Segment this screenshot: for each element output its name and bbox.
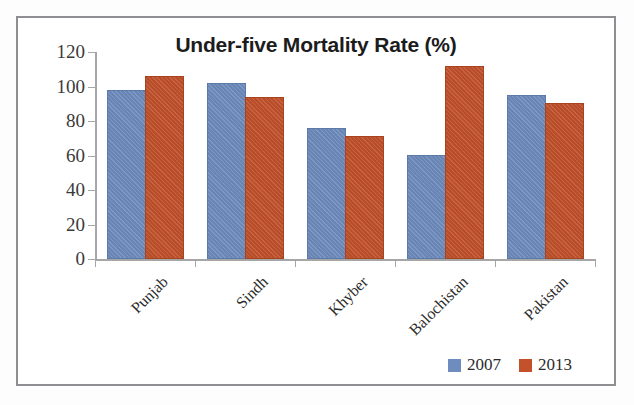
legend-item-2013[interactable]: 2013 <box>519 355 572 375</box>
y-axis-tick-mark <box>88 52 95 53</box>
y-axis-tick-mark <box>88 259 95 260</box>
y-axis-line <box>95 52 97 259</box>
x-axis-tick-mark <box>195 259 196 267</box>
bar-group <box>407 52 483 259</box>
chart-page: Under-five Mortality Rate (%) 0204060801… <box>0 0 634 405</box>
x-axis-tick-mark <box>95 259 96 267</box>
bar-pakistan-2007[interactable] <box>507 95 546 259</box>
bar-group <box>207 52 283 259</box>
y-axis-tick-label: 40 <box>66 179 85 201</box>
bar-punjab-2013[interactable] <box>145 76 184 259</box>
chart-frame: Under-five Mortality Rate (%) 0204060801… <box>16 16 616 386</box>
y-axis-tick-mark <box>88 225 95 226</box>
y-axis-tick-mark <box>88 121 95 122</box>
y-axis-tick-label: 80 <box>66 110 85 132</box>
y-axis-tick-label: 60 <box>66 145 85 167</box>
bar-punjab-2007[interactable] <box>107 90 146 259</box>
bar-khyber-2013[interactable] <box>345 136 384 259</box>
bar-sindh-2013[interactable] <box>245 97 284 259</box>
bar-balochistan-2007[interactable] <box>407 155 446 259</box>
x-axis-line <box>95 259 595 261</box>
bar-group <box>307 52 383 259</box>
bar-khyber-2007[interactable] <box>307 128 346 259</box>
x-axis-tick-mark <box>495 259 496 267</box>
legend-swatch-2007 <box>448 359 461 372</box>
y-axis-tick-label: 0 <box>76 248 86 270</box>
legend-swatch-2013 <box>519 359 532 372</box>
y-axis-tick-mark <box>88 190 95 191</box>
legend-item-2007[interactable]: 2007 <box>448 355 501 375</box>
y-axis-tick-label: 20 <box>66 214 85 236</box>
plot-area: 020406080100120 <box>95 52 595 259</box>
x-axis-tick-mark <box>295 259 296 267</box>
bar-balochistan-2013[interactable] <box>445 66 484 259</box>
y-axis-tick-mark <box>88 156 95 157</box>
bar-sindh-2007[interactable] <box>207 83 246 259</box>
x-axis-tick-mark <box>595 259 596 267</box>
legend-label-2013: 2013 <box>538 355 572 375</box>
y-axis-tick-mark <box>88 87 95 88</box>
x-axis-tick-mark <box>395 259 396 267</box>
y-axis-tick-label: 120 <box>57 41 86 63</box>
y-axis-tick-label: 100 <box>57 76 86 98</box>
bar-pakistan-2013[interactable] <box>545 103 584 259</box>
bar-group <box>107 52 183 259</box>
legend-label-2007: 2007 <box>467 355 501 375</box>
bar-group <box>507 52 583 259</box>
chart-legend: 20072013 <box>448 355 572 375</box>
